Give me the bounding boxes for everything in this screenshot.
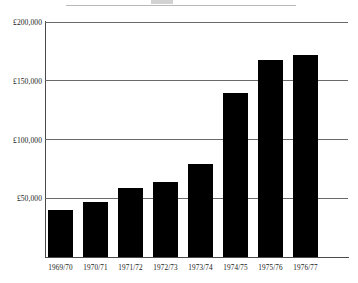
bars-group (45, 22, 348, 257)
y-tick-label: £100,000 (13, 136, 42, 145)
bar (188, 164, 213, 257)
y-tick-label: £200,000 (13, 18, 42, 27)
bar (153, 182, 178, 257)
bar (83, 202, 108, 257)
x-axis-line (45, 257, 349, 258)
bar (258, 60, 283, 257)
bar (223, 93, 248, 258)
x-tick-label: 1970/71 (76, 264, 116, 272)
x-tick-label: 1975/76 (251, 264, 291, 272)
y-tick-label: £150,000 (13, 77, 42, 86)
x-tick-label: 1969/70 (41, 264, 81, 272)
page-divider-rule (66, 5, 296, 6)
x-tick-label: 1972/73 (146, 264, 186, 272)
x-tick-label: 1973/74 (181, 264, 221, 272)
x-tick-label: 1974/75 (216, 264, 256, 272)
bar (118, 188, 143, 257)
cropped-text-fragment (151, 0, 173, 4)
y-tick-label: £50,000 (17, 194, 42, 203)
x-tick-label: 1971/72 (111, 264, 151, 272)
bar (293, 55, 318, 257)
bar-chart-figure: £200,000£150,000£100,000£50,000 1969/701… (0, 0, 358, 283)
bar (48, 210, 73, 257)
x-tick-label: 1976/77 (286, 264, 326, 272)
